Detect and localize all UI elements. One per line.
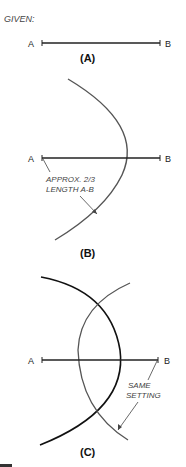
note-line-1: SAME bbox=[128, 381, 151, 390]
point-a-label: A bbox=[28, 39, 34, 49]
point-b-label: B bbox=[165, 39, 171, 49]
given-label: GIVEN: bbox=[4, 14, 35, 24]
arc-from-a bbox=[55, 79, 127, 240]
bisect-line-diagram: GIVEN: A B (A) A B APPROX. 2/3 LENGTH A-… bbox=[0, 0, 186, 467]
leader-line-upper bbox=[43, 159, 50, 172]
panel-a: A B (A) bbox=[28, 39, 171, 64]
caption-a: (A) bbox=[80, 52, 96, 64]
arc-from-a bbox=[40, 277, 121, 445]
note-line-1: APPROX. 2/3 bbox=[45, 175, 95, 184]
point-a-label: A bbox=[28, 356, 34, 366]
note-line-2: SETTING bbox=[126, 391, 161, 400]
point-b-label: B bbox=[165, 154, 171, 164]
panel-b: A B APPROX. 2/3 LENGTH A-B (B) bbox=[28, 79, 171, 259]
point-b-label: B bbox=[164, 356, 170, 366]
leader-line-lower bbox=[118, 402, 138, 430]
panel-c: A B SAME SETTING (C) bbox=[28, 277, 170, 458]
caption-c: (C) bbox=[80, 446, 96, 458]
arc-from-b bbox=[78, 283, 130, 440]
caption-b: (B) bbox=[80, 247, 96, 259]
leader-line-upper bbox=[148, 361, 157, 380]
point-a-label: A bbox=[28, 154, 34, 164]
note-line-2: LENGTH A-B bbox=[46, 185, 94, 194]
